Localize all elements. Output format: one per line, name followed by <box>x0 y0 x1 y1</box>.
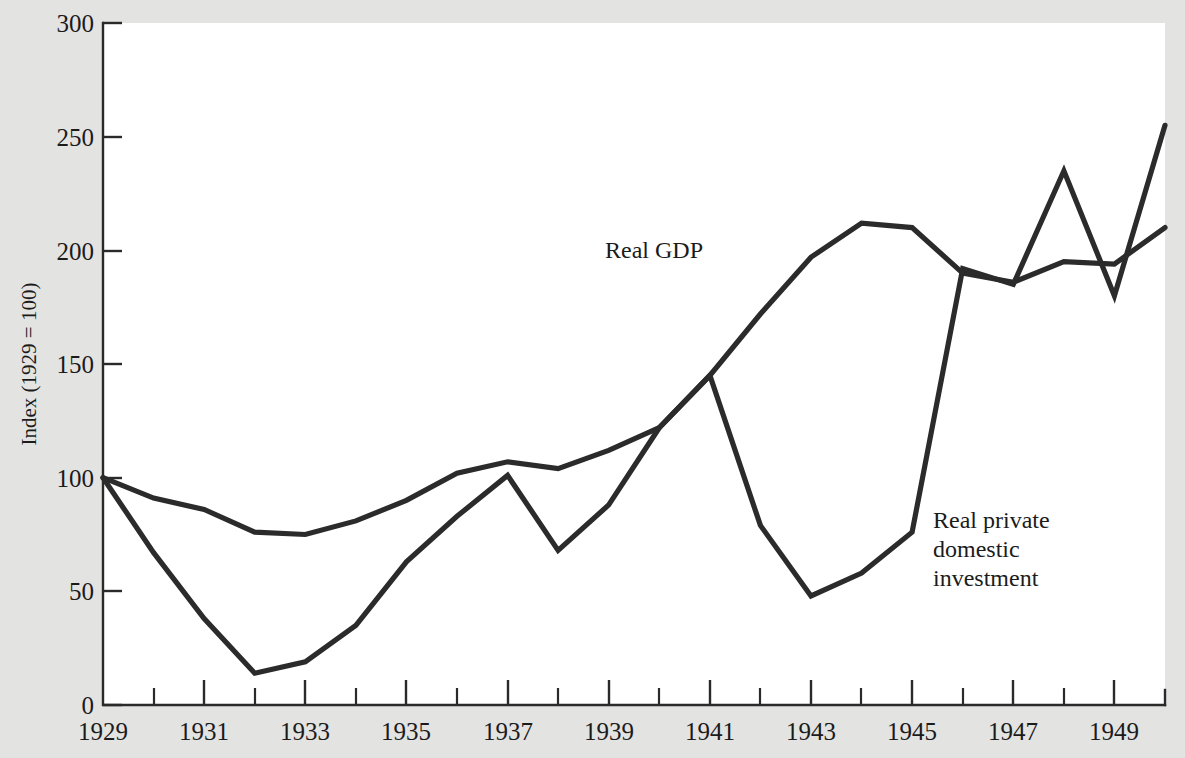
y-tick-label: 50 <box>69 578 94 605</box>
x-tick-label: 1935 <box>381 718 431 745</box>
y-axis-title: Index (1929 = 100) <box>17 283 41 446</box>
investment-label-line-1: Real private <box>933 507 1050 533</box>
x-tick-label: 1947 <box>988 718 1038 745</box>
y-tick-label: 0 <box>82 692 95 719</box>
investment-label-line-2: domestic <box>933 536 1020 562</box>
x-tick-label: 1929 <box>78 718 128 745</box>
y-tick-label: 250 <box>57 124 95 151</box>
x-tick-label: 1939 <box>584 718 634 745</box>
series-label-real-gdp: Real GDP <box>605 237 703 263</box>
x-tick-label: 1943 <box>786 718 836 745</box>
investment-label-line-3: investment <box>933 565 1039 591</box>
x-tick-label: 1945 <box>887 718 937 745</box>
y-tick-label: 150 <box>57 351 95 378</box>
x-tick-label: 1933 <box>280 718 330 745</box>
x-tick-label: 1931 <box>179 718 229 745</box>
x-tick-label: 1949 <box>1089 718 1139 745</box>
plot-area-background <box>103 23 1165 705</box>
line-chart: 300 250 200 150 100 50 0 Index (1929 = 1… <box>0 0 1185 758</box>
x-tick-label: 1941 <box>685 718 735 745</box>
y-tick-label: 200 <box>57 238 95 265</box>
y-tick-label: 100 <box>57 465 95 492</box>
x-tick-label: 1937 <box>483 718 533 745</box>
y-tick-label: 300 <box>57 10 95 37</box>
chart-figure: 300 250 200 150 100 50 0 Index (1929 = 1… <box>0 0 1185 758</box>
